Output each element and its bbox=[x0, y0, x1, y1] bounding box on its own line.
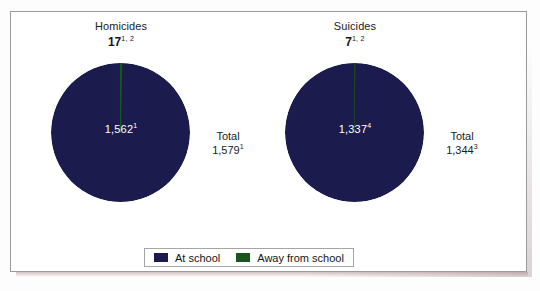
total-label-homicides: Total bbox=[193, 130, 263, 142]
total-block-homicides: Total 1,5791 bbox=[193, 130, 263, 156]
total-footnote-homicides: 1 bbox=[240, 143, 244, 150]
pie-title-homicides: Homicides bbox=[41, 20, 201, 32]
legend-label-at-school: At school bbox=[175, 252, 220, 264]
total-number-suicides: 1,344 bbox=[446, 144, 474, 156]
pie-headline-suicides: 71, 2 bbox=[275, 35, 435, 49]
total-label-suicides: Total bbox=[427, 130, 497, 142]
pie-headline-footnote-homicides: 1, 2 bbox=[121, 35, 134, 42]
figure-frame: Homicides 171, 2 1,5621 Total bbox=[10, 11, 527, 272]
legend-item-at-school: At school bbox=[154, 252, 220, 264]
legend-label-away-from-school: Away from school bbox=[257, 252, 344, 264]
pie-inner-label-suicides: 1,3374 bbox=[275, 122, 435, 135]
pie-inner-footnote-homicides: 1 bbox=[133, 122, 137, 129]
page-background: Homicides 171, 2 1,5621 Total bbox=[0, 0, 540, 291]
pie-headline-value-suicides: 7 bbox=[345, 35, 352, 49]
total-block-suicides: Total 1,3443 bbox=[427, 130, 497, 156]
pie-inner-label-homicides: 1,5621 bbox=[41, 122, 201, 135]
total-value-suicides: 1,3443 bbox=[427, 143, 497, 156]
pie-inner-value-homicides: 1,562 bbox=[105, 123, 134, 135]
legend-swatch-at-school bbox=[154, 253, 168, 262]
pie-headline-value-homicides: 17 bbox=[108, 35, 121, 49]
total-number-homicides: 1,579 bbox=[212, 144, 240, 156]
pie-title-suicides: Suicides bbox=[275, 20, 435, 32]
legend-swatch-away-from-school bbox=[236, 253, 250, 262]
total-value-homicides: 1,5791 bbox=[193, 143, 263, 156]
pie-chart-suicides: Suicides 71, 2 1,3374 Total bbox=[275, 20, 495, 220]
total-footnote-suicides: 3 bbox=[474, 143, 478, 150]
legend-item-away-from-school: Away from school bbox=[236, 252, 344, 264]
pie-inner-value-suicides: 1,337 bbox=[339, 123, 368, 135]
scan-shadow-bottom bbox=[16, 272, 528, 277]
pie-chart-homicides: Homicides 171, 2 1,5621 Total bbox=[41, 20, 261, 220]
chart-area: Homicides 171, 2 1,5621 Total bbox=[11, 12, 526, 271]
pie-headline-homicides: 171, 2 bbox=[41, 35, 201, 49]
pie-inner-footnote-suicides: 4 bbox=[367, 122, 371, 129]
pie-headline-footnote-suicides: 1, 2 bbox=[352, 35, 365, 42]
chart-legend: At school Away from school bbox=[144, 248, 354, 267]
